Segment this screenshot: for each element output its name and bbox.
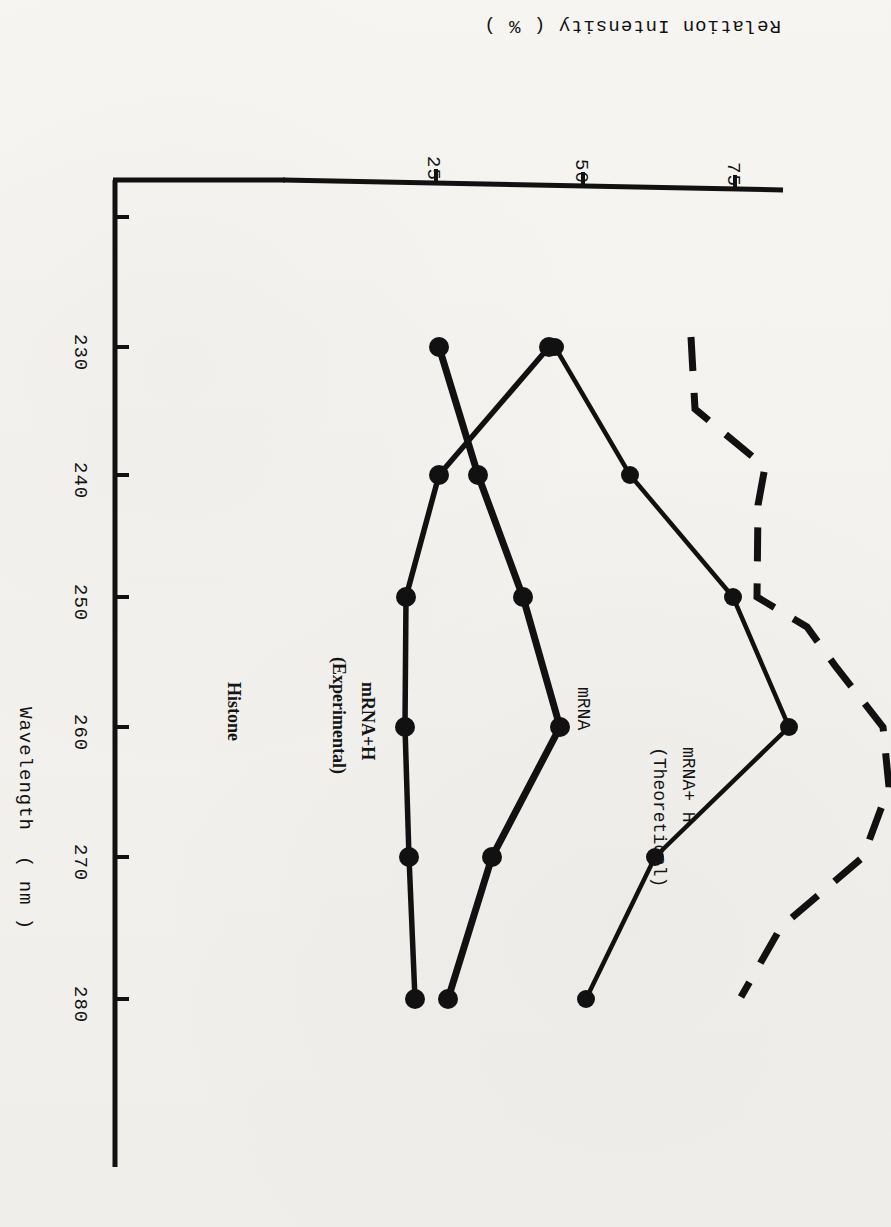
series-mrna-h-experimental [439,347,560,999]
series-label-histone: Histone [223,682,244,741]
y-axis-title: Relation Intensity ( % ) [483,15,781,37]
series-mrna-h-experimental-markers [429,337,570,1009]
y-tick-50: 50 [570,159,592,184]
series-label-mrna-h-theoretical-line2: (Theoretical) [649,747,669,887]
series-mrna-markers [546,338,798,1008]
series-mrna-h-theoretical [691,337,889,997]
series-mrna [555,347,789,999]
figure-canvas: 75 50 25 Relation Intensity ( % ) 280 27… [0,0,891,1227]
plot-svg [0,0,891,1227]
x-tick-270: 270 [69,844,91,881]
x-tick-230: 230 [69,334,91,371]
rotated-figure-container: 75 50 25 Relation Intensity ( % ) 280 27… [0,0,891,1227]
x-tick-260: 260 [69,714,91,751]
series-label-mrna-h-theoretical-line1: mRNA+ H [678,747,698,823]
axis-lines [113,180,783,1167]
series-label-mrna-h-experimental-line1: mRNA+H [357,682,378,760]
y-tick-25: 25 [422,156,444,181]
series-label-mrna: mRNA [573,687,593,730]
series-label-mrna-h-experimental-line2: (Experimental) [328,657,349,774]
x-tick-280: 280 [69,986,91,1023]
x-axis-title: Wavelength ( nm ) [14,707,36,930]
x-tick-250: 250 [69,584,91,621]
y-tick-75: 75 [722,162,744,187]
x-tick-240: 240 [69,462,91,499]
